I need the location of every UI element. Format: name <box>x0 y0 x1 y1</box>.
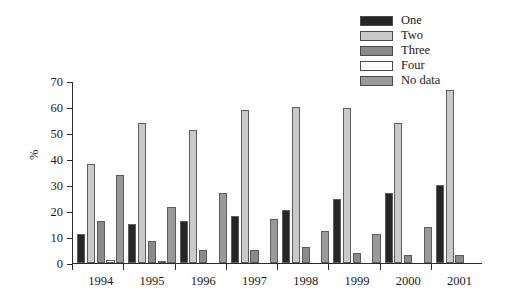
y-axis-tick-label: 70 <box>51 75 64 90</box>
bar <box>167 207 175 263</box>
legend-swatch-icon <box>360 46 393 56</box>
bar <box>270 219 278 263</box>
y-axis-tick: 50 <box>67 134 72 135</box>
bar <box>394 123 402 263</box>
legend-item: Four <box>360 59 440 72</box>
x-axis-tick-label: 1997 <box>242 274 267 289</box>
legend-item-label: One <box>401 14 422 27</box>
y-axis-tick: 30 <box>67 186 72 187</box>
bar <box>231 216 239 263</box>
y-axis-line <box>72 82 73 264</box>
bar <box>372 234 380 263</box>
bar-chart-figure: OneTwoThreeFourNo data % 010203040506070… <box>0 0 513 306</box>
bar <box>385 193 393 263</box>
legend-item-label: Four <box>401 59 425 72</box>
x-axis-tick <box>226 264 227 270</box>
x-axis-tick-label: 1995 <box>139 274 164 289</box>
y-axis-tick-label: 0 <box>57 257 63 272</box>
bar <box>455 255 463 263</box>
y-axis-tick: 40 <box>67 160 72 161</box>
bar <box>97 221 105 263</box>
x-axis-tick-label: 1998 <box>293 274 318 289</box>
x-axis-tick-label: 1996 <box>191 274 216 289</box>
legend-swatch-icon <box>360 16 393 26</box>
x-axis-tick <box>72 264 73 270</box>
y-axis-tick: 10 <box>67 238 72 239</box>
bar <box>180 221 188 263</box>
bar <box>282 210 290 263</box>
y-axis-tick-label: 10 <box>51 231 64 246</box>
y-axis-tick-label: 60 <box>51 101 64 116</box>
bar <box>77 234 85 263</box>
legend-swatch-icon <box>360 61 393 71</box>
x-axis-tick <box>277 264 278 270</box>
y-axis-title: % <box>27 150 42 160</box>
x-axis-tick <box>380 264 381 270</box>
bar <box>158 261 166 263</box>
bar <box>106 260 114 263</box>
bar <box>446 90 454 263</box>
bar <box>250 250 258 263</box>
bar <box>128 224 136 263</box>
bar <box>353 253 361 263</box>
y-axis-tick: 20 <box>67 212 72 213</box>
x-axis-tick-label: 2000 <box>396 274 421 289</box>
chart-legend: OneTwoThreeFourNo data <box>360 14 440 87</box>
bar <box>333 199 341 263</box>
legend-item-label: Two <box>401 29 423 42</box>
x-axis-tick <box>175 264 176 270</box>
legend-item: Three <box>360 44 440 57</box>
bar <box>87 164 95 263</box>
plot-area: 0102030405060701994199519961997199819992… <box>72 82 482 264</box>
x-axis-tick <box>123 264 124 270</box>
x-axis-tick-label: 1994 <box>88 274 113 289</box>
legend-item-label: Three <box>401 44 430 57</box>
bar <box>404 255 412 263</box>
bar <box>241 110 249 263</box>
bar <box>436 185 444 263</box>
bar <box>138 123 146 263</box>
y-axis-tick-label: 40 <box>51 153 64 168</box>
bar <box>189 130 197 263</box>
bar <box>292 107 300 263</box>
y-axis-tick: 70 <box>67 82 72 83</box>
x-axis-tick-label: 2001 <box>447 274 472 289</box>
y-axis-tick-label: 20 <box>51 205 64 220</box>
legend-swatch-icon <box>360 31 393 41</box>
y-axis-tick-label: 30 <box>51 179 64 194</box>
bar <box>148 241 156 263</box>
y-axis-tick: 60 <box>67 108 72 109</box>
x-axis-tick-label: 1999 <box>344 274 369 289</box>
bar <box>424 227 432 263</box>
bar <box>116 175 124 263</box>
bar <box>302 247 310 263</box>
x-axis-tick <box>431 264 432 270</box>
legend-item: One <box>360 14 440 27</box>
legend-item: Two <box>360 29 440 42</box>
bar <box>321 231 329 264</box>
bar <box>199 250 207 263</box>
bar <box>343 108 351 263</box>
x-axis-tick <box>328 264 329 270</box>
bar <box>219 193 227 263</box>
y-axis-tick-label: 50 <box>51 127 64 142</box>
